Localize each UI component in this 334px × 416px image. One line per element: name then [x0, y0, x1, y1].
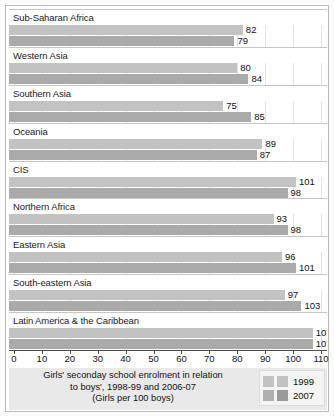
chart-frame: Sub-Saharan Africa8279Western Asia8084So…: [5, 5, 329, 412]
category-label: Oceania: [9, 126, 48, 137]
bar-2007: [9, 263, 296, 273]
bar-slot: 107: [9, 339, 327, 350]
bar-slot: 82: [9, 25, 327, 36]
bar-value-label: 97: [288, 289, 299, 300]
x-tick-label-80: 80: [232, 353, 243, 364]
bar-2007: [9, 74, 248, 84]
bar-slot: 93: [9, 214, 327, 225]
category-label: CIS: [9, 164, 29, 175]
bar-value-label: 85: [254, 111, 265, 122]
x-tick-label-30: 30: [92, 353, 103, 364]
bar-slot: 101: [9, 177, 327, 188]
bar-value-label: 98: [291, 187, 302, 198]
x-tick-label-60: 60: [176, 353, 187, 364]
bar-1999: [9, 139, 262, 149]
x-tick-label-90: 90: [260, 353, 271, 364]
caption-line-3: (Girls per 100 boys): [9, 393, 257, 405]
bar-1999: [9, 25, 243, 35]
chart-caption: Girls' seconday school enrolment in rela…: [9, 370, 257, 405]
bar-value-label: 79: [237, 35, 248, 46]
bar-value-label: 107: [316, 327, 327, 338]
bar-group: South-eastern Asia97103: [9, 274, 327, 312]
bar-slot: 98: [9, 188, 327, 199]
bar-2007: [9, 150, 257, 160]
bar-value-label: 107: [316, 338, 327, 349]
category-label: South-eastern Asia: [9, 277, 91, 288]
category-band: Sub-Saharan Africa: [9, 9, 327, 25]
bar-slot: 79: [9, 36, 327, 47]
category-label: Southern Asia: [9, 88, 71, 99]
category-band: Western Asia: [9, 47, 327, 63]
bar-slot: 96: [9, 252, 327, 263]
bar-value-label: 84: [251, 73, 262, 84]
category-band: Southern Asia: [9, 85, 327, 101]
category-label: Western Asia: [9, 50, 68, 61]
x-tick-label-0: 0: [11, 353, 16, 364]
bar-2007: [9, 188, 288, 198]
bar-slot: 84: [9, 74, 327, 85]
category-band: CIS: [9, 161, 327, 177]
legend-item-2007: 2007: [263, 388, 321, 402]
bar-2007: [9, 112, 251, 122]
bar-value-label: 75: [226, 100, 237, 111]
legend-label-2007: 2007: [293, 390, 314, 401]
legend-swatch-1999-dark: [277, 376, 288, 387]
category-label: Northern Africa: [9, 201, 75, 212]
bar-slot: 97: [9, 290, 327, 301]
bar-group: Oceania8987: [9, 123, 327, 161]
caption-line-1: Girls' seconday school enrolment in rela…: [9, 370, 257, 382]
bar-value-label: 89: [265, 138, 276, 149]
category-band: Oceania: [9, 123, 327, 139]
bar-value-label: 101: [299, 262, 315, 273]
category-band: Eastern Asia: [9, 236, 327, 252]
bar-slot: 98: [9, 225, 327, 236]
x-tick-label-110: 110: [313, 353, 328, 364]
x-tick-label-20: 20: [65, 353, 76, 364]
legend-swatch-1999-light: [263, 376, 274, 387]
x-tick-label-40: 40: [120, 353, 131, 364]
category-label: Latin America & the Caribbean: [9, 315, 139, 326]
bar-group: Southern Asia7585: [9, 85, 327, 123]
bar-value-label: 80: [240, 62, 251, 73]
bar-group: Northern Africa9398: [9, 198, 327, 236]
bar-value-label: 87: [260, 149, 271, 160]
x-axis-line: [9, 350, 327, 351]
bar-slot: 89: [9, 139, 327, 150]
category-label: Sub-Saharan Africa: [9, 12, 94, 23]
bar-2007: [9, 36, 234, 46]
bar-group: Eastern Asia96101: [9, 236, 327, 274]
category-band: Latin America & the Caribbean: [9, 312, 327, 328]
bar-1999: [9, 63, 237, 73]
bar-1999: [9, 252, 282, 262]
bar-group: Latin America & the Caribbean107107: [9, 312, 327, 350]
bar-slot: 80: [9, 63, 327, 74]
bar-value-label: 101: [299, 176, 315, 187]
legend-label-1999: 1999: [293, 376, 314, 387]
bar-value-label: 82: [246, 24, 257, 35]
chart-footer: Girls' seconday school enrolment in rela…: [9, 368, 327, 410]
legend-swatch-2007-dark: [277, 390, 288, 401]
x-tick-label-10: 10: [37, 353, 48, 364]
bar-value-label: 93: [277, 213, 288, 224]
bar-slot: 103: [9, 301, 327, 312]
x-tick-label-100: 100: [285, 353, 301, 364]
bar-groups: Sub-Saharan Africa8279Western Asia8084So…: [9, 9, 327, 350]
plot-area: Sub-Saharan Africa8279Western Asia8084So…: [9, 9, 327, 350]
legend-swatch-2007-light: [263, 390, 274, 401]
bar-2007: [9, 225, 288, 235]
chart-legend: 1999 2007: [259, 370, 325, 406]
x-tick-label-50: 50: [148, 353, 159, 364]
bar-value-label: 96: [285, 251, 296, 262]
bar-1999: [9, 214, 274, 224]
bar-1999: [9, 177, 296, 187]
bar-slot: 75: [9, 101, 327, 112]
bar-slot: 107: [9, 328, 327, 339]
bar-2007: [9, 301, 301, 311]
category-band: Northern Africa: [9, 198, 327, 214]
bar-group: Western Asia8084: [9, 47, 327, 85]
category-label: Eastern Asia: [9, 239, 65, 250]
bar-slot: 85: [9, 112, 327, 123]
bar-slot: 87: [9, 150, 327, 161]
bar-1999: [9, 101, 223, 111]
legend-item-1999: 1999: [263, 374, 321, 388]
